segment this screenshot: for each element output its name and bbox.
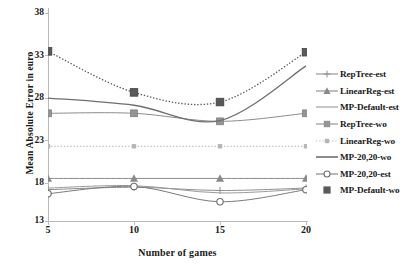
data-point — [130, 174, 138, 181]
data-point — [131, 183, 137, 189]
legend-item-label: MP-20,20-est — [340, 169, 391, 179]
legend-key-icon — [316, 184, 338, 196]
legend-item-mp-20-20-est[interactable]: MP-20,20-est — [316, 166, 414, 183]
legend-item-label: LinearReg-wo — [340, 136, 395, 146]
series-linearreg-wo — [48, 144, 307, 148]
data-point — [216, 174, 224, 181]
series-linearreg-est — [48, 174, 307, 181]
plot-area — [48, 8, 307, 221]
data-point — [130, 89, 138, 97]
series-mp-default-wo — [48, 48, 307, 106]
y-tick-label: 38 — [18, 8, 44, 18]
data-point — [218, 144, 222, 148]
data-point — [303, 110, 307, 117]
legend-item-label: MP-Default-wo — [340, 185, 399, 195]
legend-item-mp-20-20-wo[interactable]: MP-20,20-wo — [316, 149, 414, 166]
legend-key-icon — [316, 68, 338, 80]
data-point — [304, 144, 307, 148]
data-point — [48, 174, 52, 181]
legend-item-mp-default-wo[interactable]: MP-Default-wo — [316, 182, 414, 199]
y-tick-label: 18 — [18, 178, 44, 188]
y-tick-label: 23 — [18, 136, 44, 146]
data-point — [131, 110, 138, 117]
data-point — [302, 174, 307, 181]
series-layer — [48, 8, 307, 221]
x-tick-label: 20 — [291, 224, 321, 235]
data-point — [132, 144, 136, 148]
x-axis-title: Number of games — [45, 247, 310, 258]
data-point — [303, 186, 307, 192]
x-tick-label: 15 — [205, 224, 235, 235]
legend-item-linearreg-est[interactable]: LinearReg-est — [316, 83, 414, 100]
legend-key-icon — [316, 135, 338, 147]
x-tick-label: 5 — [33, 224, 63, 235]
data-point — [302, 48, 307, 56]
legend-key-icon — [316, 118, 338, 130]
legend-key-icon — [316, 101, 338, 113]
legend-item-label: RepTree-wo — [340, 119, 387, 129]
legend-item-label: MP-20,20-wo — [340, 152, 391, 162]
y-tick-label: 33 — [18, 51, 44, 61]
legend-item-label: LinearReg-est — [340, 86, 394, 96]
data-point — [48, 48, 52, 56]
data-point — [48, 144, 50, 148]
series-mp-20-20-wo — [48, 66, 306, 122]
data-point — [217, 199, 223, 205]
legend-item-label: MP-Default-est — [340, 102, 399, 112]
legend-item-linearreg-wo[interactable]: LinearReg-wo — [316, 132, 414, 149]
y-tick-label: 28 — [18, 93, 44, 103]
data-point — [216, 98, 224, 106]
chart-legend: RepTree-estLinearReg-estMP-Default-estRe… — [316, 66, 414, 199]
x-tick-label: 10 — [119, 224, 149, 235]
legend-key-icon — [316, 151, 338, 163]
x-axis-line — [48, 221, 308, 222]
legend-item-reptree-wo[interactable]: RepTree-wo — [316, 116, 414, 133]
data-point — [48, 191, 51, 197]
legend-item-reptree-est[interactable]: RepTree-est — [316, 66, 414, 83]
legend-item-label: RepTree-est — [340, 69, 386, 79]
chart-figure: Mean Absolute Error in euro 38 33 28 23 … — [0, 0, 414, 267]
legend-item-mp-default-est[interactable]: MP-Default-est — [316, 99, 414, 116]
legend-key-icon — [316, 85, 338, 97]
data-point — [48, 110, 51, 117]
legend-key-icon — [316, 168, 338, 180]
